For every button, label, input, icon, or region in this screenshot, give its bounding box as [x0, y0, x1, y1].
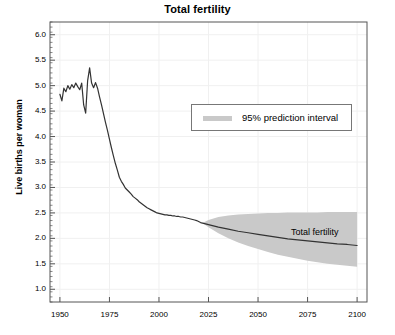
legend-label-prediction-interval: 95% prediction interval	[242, 112, 338, 123]
chart-container: Total fertility Live births per woman 1.…	[0, 0, 395, 335]
legend: 95% prediction interval	[191, 104, 352, 131]
series-annotation-total-fertility: Total fertility	[291, 227, 339, 237]
legend-swatch-prediction-interval	[203, 116, 232, 121]
plot-area	[0, 0, 395, 335]
